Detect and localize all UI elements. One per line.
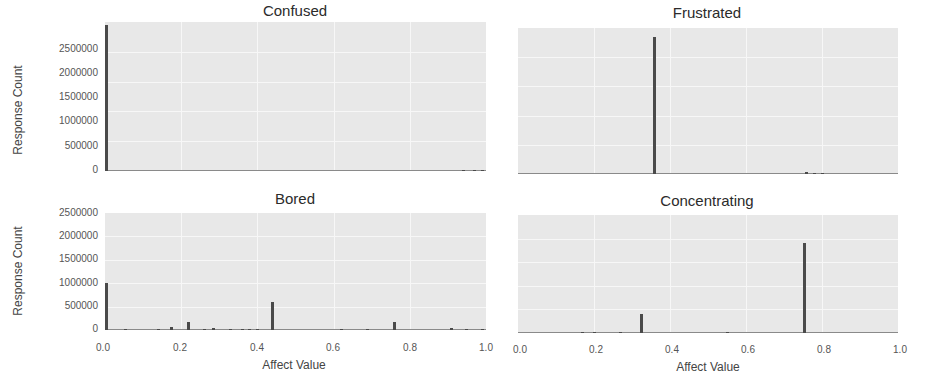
histogram-bar — [450, 328, 453, 330]
grid-line — [105, 236, 486, 237]
y-axis-label: Response Count — [11, 211, 25, 331]
histogram-bar — [640, 314, 643, 333]
grid-line — [746, 28, 747, 174]
grid-line — [181, 213, 182, 330]
x-tick-label: 0.2 — [165, 343, 195, 353]
subplot-title: Confused — [195, 2, 395, 19]
grid-line — [105, 111, 486, 112]
x-axis-label: Affect Value — [194, 358, 394, 372]
histogram-bar — [619, 332, 622, 333]
grid-line — [594, 215, 595, 333]
histogram-bar — [170, 327, 173, 330]
histogram-bar — [340, 329, 343, 330]
histogram-bar — [813, 173, 816, 174]
baseline — [105, 170, 486, 171]
plot-area — [105, 22, 486, 171]
baseline — [518, 332, 898, 333]
grid-line — [518, 239, 898, 240]
grid-line — [670, 215, 671, 333]
plot-area — [518, 28, 898, 174]
grid-line — [410, 22, 411, 171]
baseline — [518, 173, 898, 174]
grid-line — [105, 52, 486, 53]
grid-line — [518, 57, 898, 58]
grid-line — [257, 213, 258, 330]
grid-line — [334, 213, 335, 330]
grid-line — [105, 141, 486, 142]
histogram-bar — [653, 37, 656, 174]
x-axis-label: Affect Value — [608, 360, 808, 374]
histogram-bar — [465, 329, 468, 330]
x-tick-label: 0.2 — [581, 345, 611, 355]
histogram-bar — [256, 329, 259, 330]
grid-line — [518, 262, 898, 263]
x-tick-label: 0.4 — [242, 343, 272, 353]
y-tick-label: 1500000 — [38, 92, 98, 102]
x-tick-label: 0.0 — [505, 345, 535, 355]
grid-line — [105, 260, 486, 261]
baseline — [105, 329, 486, 330]
histogram-bar — [105, 25, 108, 171]
x-tick-label: 1.0 — [471, 343, 501, 353]
y-tick-label: 2500000 — [38, 44, 98, 54]
histogram-bar — [803, 243, 806, 333]
y-tick-label: 1000000 — [38, 278, 98, 288]
y-tick-label: 2000000 — [38, 68, 98, 78]
grid-line — [518, 86, 898, 87]
y-tick-label: 2000000 — [38, 231, 98, 241]
histogram-bar — [203, 329, 206, 330]
histogram-bar — [462, 170, 465, 171]
x-tick-label: 0.4 — [657, 345, 687, 355]
y-tick-label: 1500000 — [38, 254, 98, 264]
histogram-bar — [805, 172, 808, 174]
y-axis-label: Response Count — [11, 50, 25, 170]
grid-line — [518, 145, 898, 146]
grid-line — [257, 22, 258, 171]
grid-line — [105, 307, 486, 308]
histogram-bar — [581, 332, 584, 333]
x-tick-label: 0.8 — [809, 345, 839, 355]
grid-line — [746, 215, 747, 333]
y-tick-label: 1000000 — [38, 116, 98, 126]
grid-line — [410, 213, 411, 330]
histogram-bar — [248, 329, 251, 330]
grid-line — [822, 28, 823, 174]
y-tick-label: 0 — [38, 324, 98, 334]
histogram-bar — [726, 332, 729, 333]
histogram-bar — [473, 170, 476, 171]
histogram-bar — [212, 328, 215, 330]
x-tick-label: 0.8 — [395, 343, 425, 353]
plot-area — [105, 213, 486, 330]
y-tick-label: 2500000 — [38, 208, 98, 218]
grid-line — [670, 28, 671, 174]
subplot-title: Frustrated — [607, 4, 807, 21]
x-tick-label: 0.6 — [733, 345, 763, 355]
histogram-bar — [821, 173, 824, 174]
histogram-bar — [593, 332, 596, 333]
histogram-bar — [366, 329, 369, 330]
histogram-bar — [481, 329, 484, 330]
grid-line — [594, 28, 595, 174]
subplot-title: Concentrating — [607, 192, 807, 209]
y-tick-label: 0 — [38, 165, 98, 175]
y-tick-label: 500000 — [38, 301, 98, 311]
plot-area — [518, 215, 898, 333]
histogram-bar — [229, 329, 232, 330]
histogram-bar — [124, 329, 127, 330]
grid-line — [518, 286, 898, 287]
histogram-bar — [157, 329, 160, 330]
histogram-bar — [481, 170, 484, 171]
grid-line — [518, 116, 898, 117]
x-tick-label: 1.0 — [885, 345, 915, 355]
x-tick-label: 0.0 — [88, 343, 118, 353]
grid-line — [181, 22, 182, 171]
x-tick-label: 0.6 — [318, 343, 348, 353]
grid-line — [334, 22, 335, 171]
histogram-bar — [187, 322, 190, 330]
grid-line — [518, 309, 898, 310]
histogram-bar — [271, 302, 274, 330]
subplot-title: Bored — [195, 190, 395, 207]
histogram-bar — [105, 283, 108, 330]
histogram-bar — [393, 322, 396, 330]
histogram-bar — [241, 329, 244, 330]
